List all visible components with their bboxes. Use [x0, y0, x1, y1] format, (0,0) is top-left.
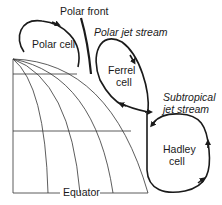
ferrel-cell-label-line2: cell — [116, 76, 132, 88]
ferrel-cell-label-line1: Ferrel — [108, 64, 135, 76]
hadley-cell-label-line1: Hadley — [163, 143, 196, 155]
polar-jet-stream-label: Polar jet stream — [94, 26, 168, 38]
polar-front-line — [81, 18, 91, 74]
subtropical-jet-stream-label-line1: Subtropical — [163, 91, 216, 103]
hadley-cell-label-line2: cell — [169, 155, 185, 167]
atmospheric-circulation-diagram: Polar front Polar jet stream Polar cell … — [0, 0, 222, 205]
equator-label: Equator — [63, 186, 100, 198]
meridian-2 — [13, 59, 80, 193]
polar-front-label: Polar front — [60, 5, 108, 17]
polar-cell-label: Polar cell — [32, 38, 75, 50]
subtropical-jet-stream-label-line2: jet stream — [163, 103, 209, 115]
